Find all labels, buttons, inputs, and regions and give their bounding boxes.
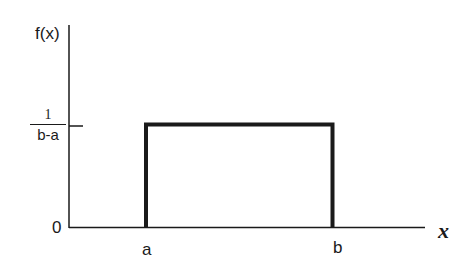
fraction-bar	[30, 124, 66, 125]
fraction-denominator: b-a	[37, 127, 59, 142]
density-curve	[146, 125, 333, 228]
y-axis-label: f(x)	[35, 25, 60, 42]
x-tick-label-a: a	[142, 241, 151, 258]
y-tick-label-density: 1 b-a	[30, 108, 66, 142]
y-tick-label-zero: 0	[52, 219, 61, 236]
fraction-numerator: 1	[45, 108, 52, 122]
x-axis-label: x	[438, 220, 449, 242]
uniform-pdf-chart	[0, 0, 467, 275]
x-tick-label-b: b	[333, 239, 342, 256]
